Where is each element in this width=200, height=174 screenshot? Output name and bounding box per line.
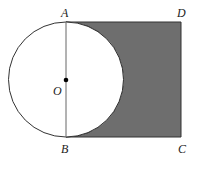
- center-point-o: [64, 78, 69, 83]
- label-c: C: [178, 142, 187, 156]
- label-b: B: [61, 142, 69, 156]
- geometry-figure: A D O B C: [0, 0, 200, 174]
- label-a: A: [60, 6, 69, 20]
- label-d: D: [176, 6, 186, 20]
- label-o: O: [53, 84, 62, 98]
